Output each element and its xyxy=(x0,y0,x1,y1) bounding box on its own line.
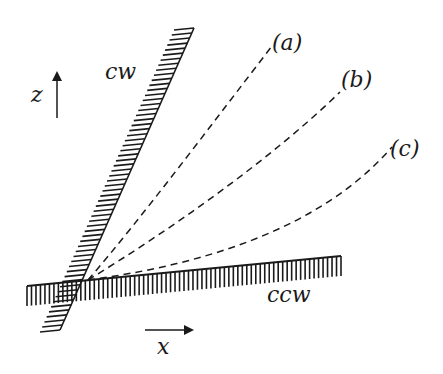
curve-c-label: (c) xyxy=(390,136,420,161)
diagram-canvas: z x cw ccw (a) (b) (c) xyxy=(0,0,443,374)
curve-b xyxy=(88,92,340,280)
curve-a-label: (a) xyxy=(272,30,302,55)
curve-c xyxy=(88,147,392,280)
curve-b-label: (b) xyxy=(341,67,372,92)
z-axis-label: z xyxy=(30,82,43,107)
ccw-label: ccw xyxy=(267,282,311,307)
x-axis-label: x xyxy=(157,334,170,359)
cw-label: cw xyxy=(105,59,136,84)
